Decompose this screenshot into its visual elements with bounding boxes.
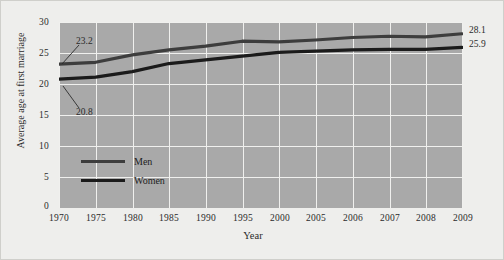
chart-legend: Men Women bbox=[81, 152, 165, 190]
y-tick-20: 20 bbox=[23, 79, 49, 89]
plot-area: 23.2 20.8 Men Women bbox=[59, 22, 463, 208]
legend-item-men: Men bbox=[81, 152, 165, 171]
y-axis-title: Average age at first marriage bbox=[15, 6, 26, 176]
callout-men-start: 23.2 bbox=[76, 36, 93, 46]
legend-label-men: Men bbox=[134, 156, 152, 167]
y-tick-30: 30 bbox=[23, 17, 49, 27]
y-tick-15: 15 bbox=[23, 110, 49, 120]
y-tick-5: 5 bbox=[23, 172, 49, 182]
y-tick-0: 0 bbox=[23, 201, 49, 211]
legend-swatch-women-icon bbox=[81, 179, 125, 182]
y-tick-25: 25 bbox=[23, 48, 49, 58]
endlabel-women: 25.9 bbox=[469, 39, 486, 49]
endlabel-men: 28.1 bbox=[469, 25, 486, 35]
legend-label-women: Women bbox=[134, 175, 165, 186]
x-axis-title: Year bbox=[1, 230, 504, 241]
y-tick-10: 10 bbox=[23, 141, 49, 151]
callout-women-start: 20.8 bbox=[76, 107, 93, 117]
x-tick-2009: 2009 bbox=[440, 213, 486, 223]
chart-figure: 30 25 20 15 10 5 0 1970 1975 1980 1985 1… bbox=[0, 0, 504, 260]
legend-item-women: Women bbox=[81, 171, 165, 190]
legend-swatch-men-icon bbox=[81, 160, 125, 163]
line-series-women bbox=[59, 47, 462, 79]
